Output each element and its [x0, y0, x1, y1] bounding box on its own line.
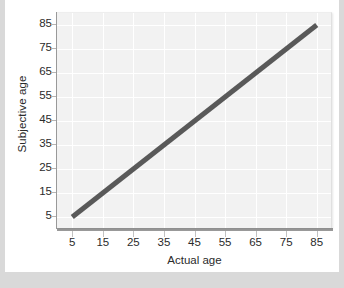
plot-area — [57, 12, 332, 228]
y-tick-mark — [51, 216, 56, 217]
x-tick-mark — [103, 231, 104, 237]
y-tick-label: 45 — [29, 114, 52, 126]
y-tick-label: 35 — [29, 138, 52, 150]
y-tick-label: 55 — [29, 90, 52, 102]
y-axis-tick-labels: 51525354555657585 — [29, 12, 52, 200]
y-tick-label: 5 — [29, 210, 52, 222]
y-tick-label: 25 — [29, 162, 52, 174]
x-tick-mark — [286, 231, 287, 237]
x-axis-title-text: Actual age — [167, 254, 221, 266]
y-tick-mark — [51, 24, 56, 25]
x-tick-mark — [225, 231, 226, 237]
x-axis-tick-labels: 51525354555657585 — [57, 236, 332, 252]
data-line-series — [57, 13, 332, 228]
y-axis-title-text: Subjective age — [16, 76, 28, 153]
y-tick-mark — [51, 96, 56, 97]
y-tick-label: 85 — [29, 18, 52, 30]
x-tick-label: 85 — [299, 236, 335, 250]
y-tick-mark — [51, 120, 56, 121]
x-axis-title: Actual age — [57, 254, 332, 266]
identity-line — [72, 25, 316, 217]
x-tick-mark — [195, 231, 196, 237]
y-tick-mark — [51, 168, 56, 169]
x-tick-mark — [164, 231, 165, 237]
x-tick-mark — [317, 231, 318, 237]
y-tick-mark — [51, 48, 56, 49]
x-tick-mark — [133, 231, 134, 237]
x-tick-mark — [72, 231, 73, 237]
y-tick-mark — [51, 144, 56, 145]
y-tick-mark — [51, 192, 56, 193]
y-tick-label: 75 — [29, 42, 52, 54]
y-tick-label: 15 — [29, 186, 52, 198]
figure-card: Subjective age 51525354555657585 5152535… — [5, 0, 339, 272]
x-tick-mark — [256, 231, 257, 237]
y-tick-mark — [51, 72, 56, 73]
y-tick-label: 65 — [29, 66, 52, 78]
